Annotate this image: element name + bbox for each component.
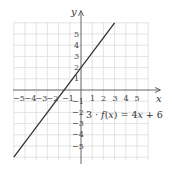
svg-text:−5: −5	[72, 142, 84, 151]
svg-text:−2: −2	[72, 108, 84, 117]
x-axis-label: x	[156, 93, 162, 104]
svg-text:3: 3	[74, 52, 79, 61]
svg-text:4: 4	[124, 94, 129, 103]
svg-text:−1: −1	[72, 97, 84, 106]
svg-text:3: 3	[113, 94, 118, 103]
function-graph: x y −5 −4 −3 −2 −1 1 2 3 4 5 5 4 3 2 1 −…	[0, 0, 172, 172]
svg-text:−4: −4	[72, 130, 84, 139]
svg-text:2: 2	[101, 94, 106, 103]
svg-text:5: 5	[74, 30, 79, 39]
coordinate-plane: x y −5 −4 −3 −2 −1 1 2 3 4 5 5 4 3 2 1 −…	[0, 0, 172, 172]
y-axis-label: y	[70, 6, 77, 17]
equation-label: 3 · f(x) = 4x + 6	[86, 109, 163, 120]
svg-text:−2: −2	[47, 94, 59, 103]
svg-text:−5: −5	[13, 94, 25, 103]
svg-text:4: 4	[74, 41, 79, 50]
svg-text:−3: −3	[72, 119, 84, 128]
svg-text:1: 1	[90, 94, 95, 103]
svg-text:5: 5	[135, 94, 140, 103]
axes	[13, 11, 161, 165]
